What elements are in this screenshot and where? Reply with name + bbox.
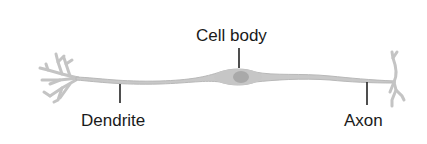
dendrite-label: Dendrite [81,112,145,129]
axon-label: Axon [344,112,383,129]
nucleus [233,71,249,83]
cell-body-label: Cell body [196,27,267,44]
axon-terminals [390,52,404,106]
neuron-diagram: Cell body Dendrite Axon [0,0,427,144]
dendrite-branches [40,54,78,102]
